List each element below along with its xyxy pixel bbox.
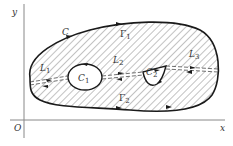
multiply-connected-region-diagram: y x O C C1 C2 L1 L2 L3 Γ1 Γ2: [0, 0, 233, 146]
outer-curve-label: C: [62, 27, 69, 37]
hatched-region: [0, 0, 233, 146]
x-axis-label: x: [220, 123, 225, 133]
origin-label: O: [14, 123, 22, 133]
y-axis-label: y: [11, 7, 18, 17]
